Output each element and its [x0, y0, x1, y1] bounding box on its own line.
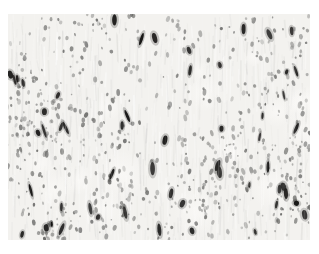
page-background	[0, 0, 319, 254]
micrograph-canvas	[8, 14, 310, 240]
micrograph	[8, 14, 310, 240]
